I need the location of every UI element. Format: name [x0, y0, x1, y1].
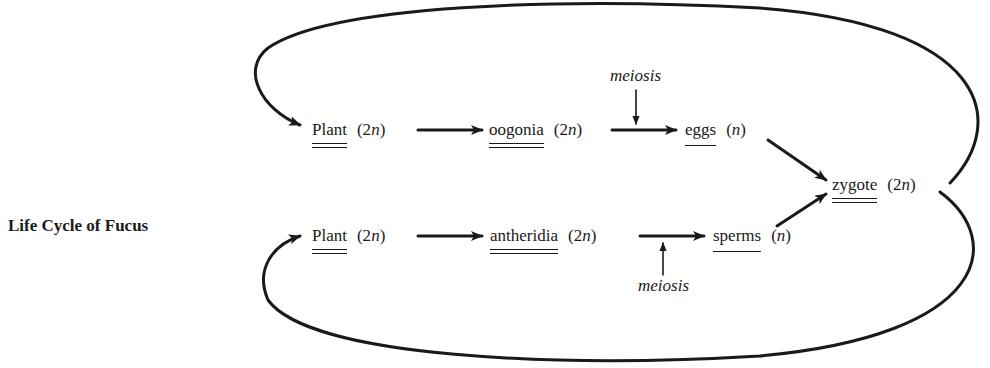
meiosis-label-top: meiosis	[610, 66, 661, 86]
ploidy-label: (n)	[771, 226, 791, 245]
loop-arrow-top	[255, 4, 978, 183]
node-plant-top: Plant(2n)	[312, 120, 385, 140]
ploidy-label: (n)	[726, 120, 746, 139]
node-name: oogonia	[489, 120, 544, 140]
node-antheridia: antheridia(2n)	[490, 226, 596, 246]
node-sperms: sperms(n)	[713, 226, 791, 246]
node-name: eggs	[685, 120, 716, 140]
ploidy-label: (2n)	[554, 120, 582, 139]
node-name: antheridia	[490, 226, 558, 246]
node-name: Plant	[312, 226, 347, 246]
node-zygote: zygote(2n)	[832, 175, 916, 195]
ploidy-label: (2n)	[887, 175, 915, 194]
arrow-sperms-to-zygote	[777, 194, 826, 226]
node-oogonia: oogonia(2n)	[489, 120, 582, 140]
node-plant-bottom: Plant(2n)	[312, 226, 385, 246]
node-eggs: eggs(n)	[685, 120, 746, 140]
ploidy-label: (2n)	[568, 226, 596, 245]
ploidy-label: (2n)	[357, 226, 385, 245]
loop-arrow-bottom	[264, 192, 974, 360]
node-name: sperms	[713, 226, 761, 246]
node-name: zygote	[832, 175, 877, 195]
meiosis-label-bottom: meiosis	[638, 276, 689, 296]
node-name: Plant	[312, 120, 347, 140]
ploidy-label: (2n)	[357, 120, 385, 139]
arrow-eggs-to-zygote	[768, 140, 826, 180]
diagram-title: Life Cycle of Fucus	[8, 216, 148, 236]
